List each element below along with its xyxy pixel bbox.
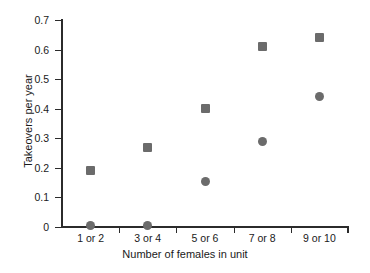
y-axis-tick-label: 0 [9,222,49,233]
y-axis-tick [55,227,62,228]
y-axis-tick [55,79,62,80]
x-axis-tick-label: 5 or 6 [175,232,235,244]
y-axis-title: Takeovers per year [22,31,34,211]
data-point-square [86,166,95,175]
y-axis-tick [55,20,62,21]
x-axis-title: Number of females in unit [0,248,370,260]
y-axis-tick-label: 0.7 [9,15,49,26]
data-point-circle [86,221,95,230]
data-point-circle [143,221,152,230]
scatter-chart: 00.10.20.30.40.50.60.7 1 or 23 or 45 or … [0,0,370,273]
x-axis-tick-label: 1 or 2 [61,232,121,244]
y-axis-tick [55,138,62,139]
data-point-square [143,143,152,152]
data-point-circle [258,137,267,146]
plot-area [62,20,348,227]
y-axis-tick [55,109,62,110]
y-axis-tick [55,50,62,51]
y-axis-tick [55,168,62,169]
data-point-circle [201,177,210,186]
data-point-square [201,104,210,113]
data-point-square [258,42,267,51]
data-point-square [315,33,324,42]
x-axis-tick-label: 7 or 8 [232,232,292,244]
x-axis-tick-label: 9 or 10 [289,232,349,244]
x-axis-tick-label: 3 or 4 [118,232,178,244]
y-axis-tick [55,197,62,198]
